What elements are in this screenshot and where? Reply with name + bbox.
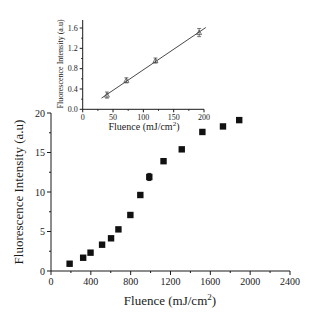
main-y-axis-label: Fluorescence Intensity (a.u) — [11, 120, 26, 265]
svg-text:1.6: 1.6 — [68, 24, 78, 33]
svg-text:2000: 2000 — [240, 276, 260, 287]
main-axes: 0400800120016002000240005101520 — [35, 108, 300, 288]
svg-text:0: 0 — [81, 113, 85, 122]
svg-text:800: 800 — [123, 276, 138, 287]
svg-text:1.2: 1.2 — [68, 44, 78, 53]
svg-text:400: 400 — [83, 276, 98, 287]
svg-text:20: 20 — [35, 108, 45, 119]
svg-text:0.8: 0.8 — [68, 64, 78, 73]
main-data-points — [66, 117, 242, 267]
svg-text:200: 200 — [198, 113, 210, 122]
svg-text:0.0: 0.0 — [68, 105, 78, 114]
svg-text:0: 0 — [40, 266, 45, 277]
chart-canvas: 0400800120016002000240005101520 Fluence … — [0, 0, 311, 316]
svg-text:0: 0 — [49, 276, 54, 287]
svg-text:10: 10 — [35, 187, 45, 198]
svg-text:15: 15 — [35, 147, 45, 158]
inset-y-axis-label: Fluorescence Intensity (a.u) — [56, 19, 65, 108]
svg-text:1200: 1200 — [161, 276, 181, 287]
main-x-axis-label: Fluence (mJ/cm2) — [124, 292, 216, 308]
svg-text:1600: 1600 — [200, 276, 220, 287]
inset-axes: 0501001502000.00.40.81.21.6 — [68, 20, 210, 122]
svg-text:2400: 2400 — [280, 276, 300, 287]
inset-x-axis-label: Fluence (mJ/cm2) — [109, 120, 180, 133]
svg-text:0.4: 0.4 — [68, 85, 78, 94]
svg-text:5: 5 — [40, 226, 45, 237]
